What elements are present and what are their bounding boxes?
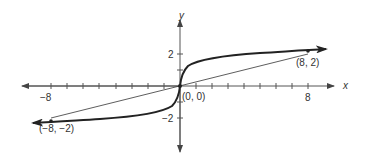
- point-8-2: [306, 49, 310, 53]
- point-label-8-2: (8, 2): [296, 57, 319, 68]
- point-origin: [178, 84, 182, 88]
- x-tick-label-8: 8: [305, 92, 311, 103]
- point-label-origin: (0, 0): [182, 91, 205, 102]
- x-axis-label: x: [342, 80, 349, 91]
- x-tick-label-neg8: −8: [40, 92, 52, 103]
- y-tick-label-2: 2: [168, 49, 174, 60]
- y-tick-label-neg2: −2: [162, 113, 174, 124]
- y-axis-label: y: [178, 10, 185, 21]
- point-label-neg8-neg2: (−8, −2): [39, 123, 74, 134]
- cube-root-graph: y x 2 −2 −8 8 (0, 0) (8, 2) (−8, −2): [0, 0, 367, 159]
